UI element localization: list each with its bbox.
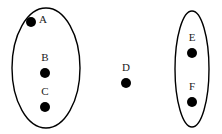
node-dot-d[interactable] — [121, 78, 131, 88]
node-label-d: D — [122, 61, 130, 73]
node-dot-e[interactable] — [187, 48, 197, 58]
point-grouping-diagram: A B C D E F — [0, 0, 222, 134]
node-label-e: E — [189, 31, 196, 43]
node-dot-c[interactable] — [40, 102, 50, 112]
node-label-c: C — [41, 85, 48, 97]
node-dot-a[interactable] — [26, 17, 36, 27]
node-label-a: A — [39, 13, 47, 25]
node-label-b: B — [41, 51, 48, 63]
diagram-canvas: A B C D E F — [0, 0, 222, 134]
group-ellipse-right[interactable] — [175, 11, 209, 127]
node-label-f: F — [189, 80, 195, 92]
node-dot-f[interactable] — [187, 97, 197, 107]
node-dot-b[interactable] — [40, 68, 50, 78]
